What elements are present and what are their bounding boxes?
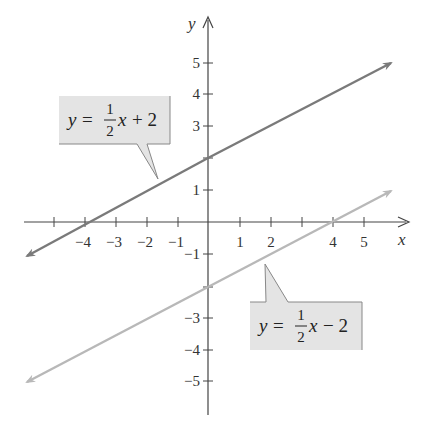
- svg-text:−4: −4: [75, 234, 91, 250]
- svg-text:5: 5: [360, 234, 368, 250]
- x-tick-labels: −4 −3 −2 −1 1 2 4 5: [75, 234, 368, 250]
- svg-text:−1: −1: [168, 234, 184, 250]
- svg-text:4: 4: [329, 234, 337, 250]
- svg-text:2: 2: [106, 123, 114, 139]
- svg-text:=: =: [82, 109, 93, 130]
- svg-text:2: 2: [297, 329, 305, 345]
- svg-text:−1: −1: [184, 246, 200, 262]
- callout-plus-2: y = 1 2 x + 2: [59, 96, 170, 179]
- y-axis-label: y: [186, 14, 196, 33]
- graph-canvas: −4 −3 −2 −1 1 2 4 5 x 5 4 3 1 −1 −3 −4 −…: [0, 0, 429, 428]
- svg-text:−5: −5: [184, 373, 200, 389]
- svg-text:−4: −4: [184, 342, 200, 358]
- svg-text:x: x: [117, 109, 127, 130]
- svg-text:=: =: [273, 315, 284, 336]
- callout-minus-2: y = 1 2 x − 2: [250, 264, 362, 350]
- svg-text:y: y: [66, 109, 77, 130]
- svg-text:−3: −3: [184, 310, 200, 326]
- x-axis-label: x: [397, 230, 406, 249]
- svg-text:1: 1: [106, 101, 114, 117]
- svg-text:1: 1: [297, 307, 305, 323]
- y-axis: [203, 17, 213, 415]
- svg-text:+ 2: + 2: [132, 109, 157, 130]
- svg-text:3: 3: [193, 118, 201, 134]
- svg-text:1: 1: [193, 182, 201, 198]
- svg-text:2: 2: [267, 234, 275, 250]
- svg-text:−3: −3: [106, 234, 122, 250]
- svg-text:5: 5: [193, 55, 201, 71]
- series-line-minus-2-left: [27, 287, 208, 382]
- svg-text:x: x: [308, 315, 318, 336]
- svg-text:y: y: [257, 315, 268, 336]
- svg-text:4: 4: [193, 86, 201, 102]
- svg-text:1: 1: [236, 234, 244, 250]
- series-line-plus-2: [208, 63, 391, 158]
- svg-text:−2: −2: [137, 234, 153, 250]
- svg-text:− 2: − 2: [323, 315, 348, 336]
